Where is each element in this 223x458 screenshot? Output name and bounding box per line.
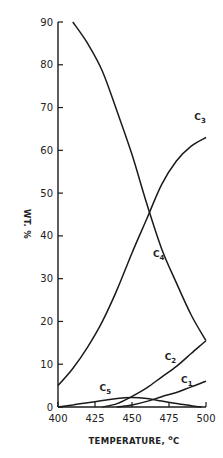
y-axis-title: WT. % bbox=[22, 209, 32, 239]
x-tick-label: 425 bbox=[85, 413, 104, 424]
x-axis-unit: C bbox=[173, 436, 180, 446]
curve-c4 bbox=[73, 22, 206, 341]
label-c1: C1 bbox=[181, 375, 193, 388]
curve-c2 bbox=[102, 341, 206, 407]
y-tick-label: 80 bbox=[40, 59, 53, 70]
x-tick-label: 500 bbox=[196, 413, 215, 424]
label-c3: C3 bbox=[194, 112, 206, 125]
y-tick-label: 70 bbox=[40, 102, 53, 113]
label-c2: C2 bbox=[165, 352, 177, 365]
y-tick-label: 60 bbox=[40, 145, 53, 156]
x-axis-title-text: TEMPERATURE, bbox=[88, 436, 168, 446]
y-tick-label: 40 bbox=[40, 230, 53, 241]
x-axis-title: TEMPERATURE, oC bbox=[88, 434, 179, 446]
x-tick-label: 400 bbox=[48, 413, 67, 424]
chart: 0102030405060708090400425450475500 C3C4C… bbox=[0, 0, 223, 458]
curves bbox=[58, 22, 206, 407]
curve-c3 bbox=[58, 138, 206, 386]
label-c5: C5 bbox=[100, 383, 112, 396]
y-tick-label: 50 bbox=[40, 188, 53, 199]
y-tick-label: 30 bbox=[40, 273, 53, 284]
y-tick-label: 20 bbox=[40, 316, 53, 327]
y-tick-label: 90 bbox=[40, 17, 53, 28]
axes: 0102030405060708090400425450475500 bbox=[40, 17, 215, 425]
curve-c1 bbox=[117, 381, 206, 407]
y-tick-label: 10 bbox=[40, 359, 53, 370]
x-tick-label: 450 bbox=[122, 413, 141, 424]
x-tick-label: 475 bbox=[159, 413, 178, 424]
y-tick-label: 0 bbox=[47, 402, 53, 413]
